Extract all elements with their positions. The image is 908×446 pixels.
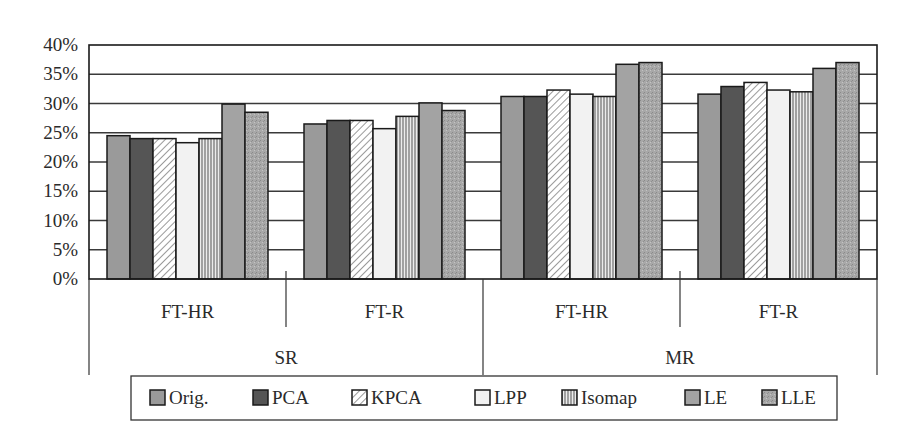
bar-le [616, 64, 639, 279]
bar-pca [721, 87, 744, 279]
y-tick-label: 30% [43, 93, 78, 114]
y-tick-label: 10% [43, 210, 78, 231]
legend-label: Orig. [169, 387, 209, 408]
bar-isomap [199, 139, 222, 279]
bar-isomap [593, 96, 616, 279]
legend-item: KPCA [352, 387, 422, 408]
legend-label: LLE [781, 387, 816, 408]
y-tick-label: 5% [53, 239, 79, 260]
legend-item: Orig. [150, 387, 209, 408]
legend-item: Isomap [562, 387, 637, 408]
bar-lle [245, 112, 268, 279]
y-tick-label: 40% [43, 34, 78, 55]
x-axis: FT-HRFT-RFT-HRFT-RSRMR [89, 271, 877, 375]
bar-pca [524, 96, 547, 279]
bar-lle [836, 63, 859, 279]
y-axis: 0%5%10%15%20%25%30%35%40% [43, 34, 78, 289]
bar-kpca [547, 90, 570, 279]
legend-label: PCA [272, 387, 309, 408]
legend-item: LLE [762, 387, 816, 408]
y-tick-label: 35% [43, 63, 78, 84]
y-tick-label: 15% [43, 180, 78, 201]
bar-lpp [570, 94, 593, 279]
legend-swatch-icon [253, 390, 268, 405]
legend-item: LE [685, 387, 727, 408]
y-tick-label: 20% [43, 151, 78, 172]
bar-le [813, 68, 836, 279]
inner-category-label: FT-R [365, 301, 405, 322]
bar-lpp [767, 90, 790, 279]
legend-label: KPCA [371, 387, 422, 408]
legend-label: LPP [494, 387, 527, 408]
legend-swatch-icon [475, 390, 490, 405]
bar-orig [304, 124, 327, 279]
outer-category-label: MR [665, 347, 695, 368]
y-tick-label: 25% [43, 122, 78, 143]
inner-category-label: FT-HR [555, 301, 608, 322]
y-tick-label: 0% [53, 268, 79, 289]
bars [107, 63, 859, 279]
bar-isomap [396, 116, 419, 279]
inner-category-label: FT-R [759, 301, 799, 322]
legend-label: LE [704, 387, 727, 408]
legend-swatch-icon [352, 390, 367, 405]
bar-lle [442, 111, 465, 279]
bar-le [419, 103, 442, 279]
outer-category-label: SR [274, 347, 298, 368]
legend-swatch-icon [685, 390, 700, 405]
bar-orig [698, 94, 721, 279]
legend-item: PCA [253, 387, 309, 408]
legend-swatch-icon [562, 390, 577, 405]
legend-swatch-icon [762, 390, 777, 405]
bar-pca [327, 120, 350, 279]
bar-kpca [744, 82, 767, 279]
inner-category-label: FT-HR [161, 301, 214, 322]
bar-orig [501, 96, 524, 279]
bar-lpp [373, 129, 396, 279]
bar-orig [107, 136, 130, 279]
bar-le [222, 104, 245, 279]
bar-kpca [350, 120, 373, 279]
bar-kpca [153, 139, 176, 279]
legend-swatch-icon [150, 390, 165, 405]
bar-lpp [176, 143, 199, 279]
bar-lle [639, 63, 662, 279]
bar-isomap [790, 92, 813, 279]
legend-item: LPP [475, 387, 527, 408]
grouped-bar-chart: 0%5%10%15%20%25%30%35%40% FT-HRFT-RFT-HR… [0, 0, 908, 446]
legend-label: Isomap [581, 387, 637, 408]
legend: Orig.PCAKPCALPPIsomapLELLE [131, 376, 837, 420]
bar-pca [130, 139, 153, 279]
